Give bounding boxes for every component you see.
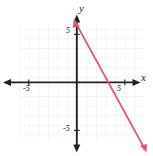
coordinate-plane-svg [0,0,153,156]
x-axis-left-arrow [3,79,11,86]
x-axis-label: x [141,72,146,83]
x-tick-label-neg5: -5 [23,85,30,93]
y-tick-label-neg5: -5 [63,125,70,133]
line-end-arrow [140,144,147,153]
y-tick-label-pos5: 5 [66,27,70,35]
graph-figure: y x -5 5 5 -5 [0,0,153,156]
y-axis-label: y [79,3,84,14]
x-tick-label-pos5: 5 [117,85,121,93]
y-axis-bottom-arrow [73,145,80,153]
